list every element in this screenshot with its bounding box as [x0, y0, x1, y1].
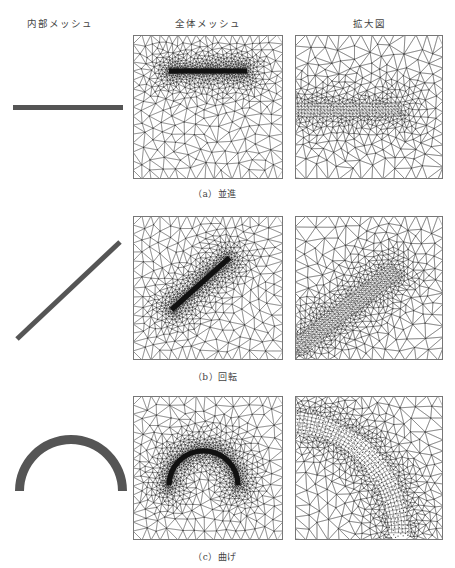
caption-rotation: （b）回転 [140, 370, 290, 383]
inner-arch-shape [15, 435, 127, 491]
global-mesh-rotation [133, 216, 283, 360]
inner-rotated-bar-shape [17, 242, 120, 339]
caption-translation: （a）並進 [140, 187, 290, 200]
caption-bending: （c）曲げ [140, 550, 290, 563]
inner-bar-shape [13, 105, 123, 110]
header-zoom-view: 拡大図 [295, 16, 443, 30]
header-global-mesh: 全体メッシュ [133, 16, 283, 30]
global-mesh-bending [133, 396, 283, 540]
zoom-mesh-translation [295, 35, 443, 179]
global-mesh-translation [133, 35, 283, 179]
zoom-mesh-bending [295, 396, 443, 540]
zoom-mesh-rotation [295, 216, 443, 360]
inner-mesh-translation [0, 0, 130, 568]
